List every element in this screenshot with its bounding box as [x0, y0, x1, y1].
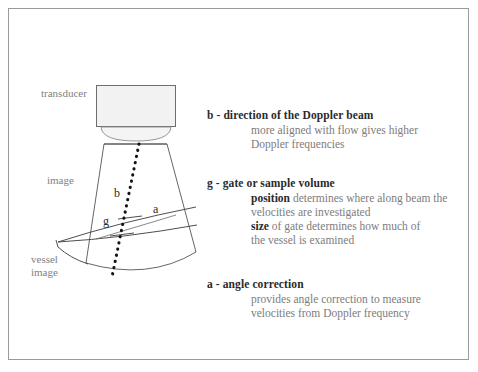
legend-block-angle-correction: a - angle correction provides angle corr… — [207, 277, 462, 320]
label-transducer: transducer — [41, 87, 87, 100]
marker-angle-a: a — [153, 203, 158, 215]
legend-line: provides angle correction to measure — [251, 292, 462, 306]
legend-line-text: the vessel is examined — [251, 234, 354, 246]
marker-gate-g: g — [103, 215, 109, 227]
legend-line: more aligned with flow gives higher — [251, 123, 462, 137]
label-image: image — [47, 174, 74, 187]
legend-line: velocities from Doppler frequency — [251, 306, 462, 320]
legend-body-beam-direction: more aligned with flow gives higher Dopp… — [251, 123, 462, 151]
label-vessel-image: vessel image — [31, 253, 58, 279]
legend-block-beam-direction: b - direction of the Doppler beam more a… — [207, 108, 462, 151]
legend-line-text: velocities from Doppler frequency — [251, 307, 410, 319]
legend-panel: b - direction of the Doppler beam more a… — [207, 108, 462, 320]
legend-emphasis-position: position — [251, 192, 290, 204]
marker-beam-b: b — [114, 187, 120, 199]
legend-line-text: of gate determines how much of — [269, 220, 420, 232]
legend-line: Doppler frequencies — [251, 137, 462, 151]
legend-body-angle-correction: provides angle correction to measure vel… — [251, 292, 462, 320]
legend-line-text: Doppler frequencies — [251, 138, 345, 150]
legend-line-text: determines where along beam the — [290, 192, 447, 204]
legend-line: velocities are investigated — [251, 205, 462, 219]
legend-line-text: more aligned with flow gives higher — [251, 124, 418, 136]
legend-emphasis-size: size — [251, 220, 269, 232]
legend-line-text: provides angle correction to measure — [251, 293, 421, 305]
legend-line: size of gate determines how much of — [251, 219, 462, 233]
legend-heading-angle-correction: a - angle correction — [207, 277, 462, 292]
legend-line: the vessel is examined — [251, 233, 462, 247]
legend-line-text: velocities are investigated — [251, 206, 370, 218]
legend-body-gate: position determines where along beam the… — [251, 191, 462, 247]
legend-block-gate: g - gate or sample volume position deter… — [207, 176, 462, 247]
legend-heading-beam-direction: b - direction of the Doppler beam — [207, 108, 462, 123]
legend-heading-gate: g - gate or sample volume — [207, 176, 462, 191]
legend-line: position determines where along beam the — [251, 191, 462, 205]
